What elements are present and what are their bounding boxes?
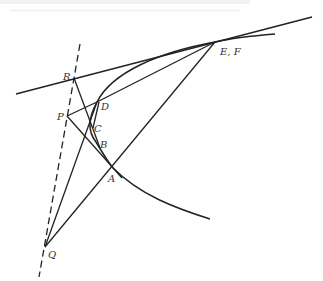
geometry-figure: R P D C B A E, F Q [0, 0, 323, 281]
label-Q: Q [48, 249, 56, 260]
label-B: B [99, 139, 107, 150]
label-EF: E, F [219, 46, 242, 57]
diagram-canvas: R P D C B A E, F Q [0, 0, 323, 281]
line-Q-D [45, 102, 97, 247]
cropped-text-remnant [0, 0, 250, 12]
label-A: A [107, 173, 115, 184]
label-C: C [94, 123, 102, 134]
line-EF-D [97, 42, 215, 102]
label-D: D [100, 101, 109, 112]
label-R: R [62, 71, 71, 82]
curve [90, 34, 275, 219]
label-P: P [56, 111, 64, 122]
